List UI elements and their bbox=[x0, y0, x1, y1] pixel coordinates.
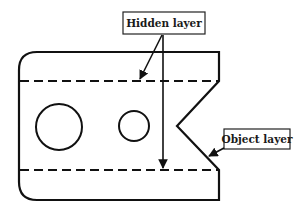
hidden-layer-callout: Hidden layer bbox=[123, 12, 205, 168]
hidden-arrow-diagonal bbox=[140, 35, 162, 79]
large-hole bbox=[36, 104, 82, 150]
object-layer-callout: Object layer bbox=[209, 129, 293, 156]
small-hole bbox=[119, 111, 149, 141]
hidden-layer-label: Hidden layer bbox=[126, 17, 202, 29]
object-layer-label: Object layer bbox=[222, 133, 293, 145]
object-arrow bbox=[209, 148, 224, 156]
technical-drawing: Hidden layer Object layer bbox=[0, 0, 305, 214]
